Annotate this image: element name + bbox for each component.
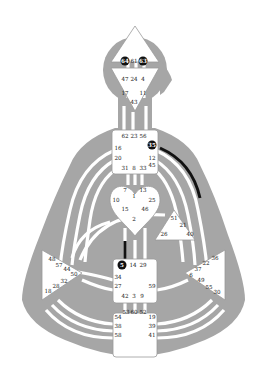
gate-10: 10 (112, 197, 120, 203)
gate-19: 19 (148, 314, 156, 320)
gate-56: 56 (139, 133, 147, 139)
gate-41: 41 (148, 332, 155, 338)
gate-25: 25 (148, 197, 156, 203)
gate-53: 53 (122, 309, 130, 315)
gate-55: 55 (205, 284, 213, 290)
gate-15: 15 (121, 206, 129, 212)
gate-4: 4 (141, 76, 145, 82)
gate-57: 57 (55, 262, 63, 268)
gate-50: 50 (70, 271, 78, 277)
gate-33: 33 (139, 165, 147, 171)
gate-35: 35 (148, 142, 156, 148)
gate-16: 16 (114, 145, 122, 151)
gate-36: 36 (211, 255, 219, 261)
gate-39: 39 (148, 323, 156, 329)
gate-38: 38 (114, 323, 122, 329)
gate-28: 28 (52, 283, 60, 289)
gate-40: 40 (186, 231, 194, 237)
gate-42: 42 (121, 293, 129, 299)
gate-26: 26 (160, 231, 168, 237)
gate-27: 27 (114, 283, 122, 289)
gate-59: 59 (148, 283, 156, 289)
gate-21: 21 (179, 222, 186, 228)
gate-43: 43 (130, 99, 138, 105)
gate-24: 24 (130, 76, 138, 82)
gate-54: 54 (114, 314, 122, 320)
gate-64: 64 (121, 58, 129, 64)
bodygraph-chart: 64 61 63 47 24 4 17 11 43 62 23 56 16 35… (0, 0, 267, 379)
gate-60: 60 (130, 309, 138, 315)
gate-46: 46 (141, 206, 149, 212)
gate-6: 6 (189, 272, 193, 278)
gate-5: 5 (120, 262, 124, 268)
gate-22: 22 (202, 260, 210, 266)
gate-12: 12 (148, 155, 156, 161)
gate-17: 17 (121, 90, 129, 96)
gate-47: 47 (121, 76, 129, 82)
gate-2: 2 (132, 216, 136, 222)
gate-20: 20 (114, 155, 122, 161)
gate-30: 30 (213, 289, 221, 295)
gate-11: 11 (139, 90, 146, 96)
gate-45: 45 (148, 162, 156, 168)
gate-51: 51 (170, 215, 177, 221)
gate-3: 3 (132, 293, 136, 299)
gate-9: 9 (140, 293, 144, 299)
gate-37: 37 (194, 266, 202, 272)
gate-32: 32 (60, 278, 68, 284)
gate-1: 1 (132, 193, 136, 199)
gate-63: 63 (139, 58, 147, 64)
gate-13: 13 (139, 187, 147, 193)
gate-34: 34 (114, 274, 122, 280)
gate-23: 23 (130, 133, 138, 139)
gate-61: 61 (130, 58, 137, 64)
gate-8: 8 (132, 165, 136, 171)
gate-7: 7 (123, 187, 127, 193)
gate-18: 18 (44, 288, 52, 294)
gate-31: 31 (121, 165, 128, 171)
gate-29: 29 (139, 262, 147, 268)
gate-49: 49 (197, 277, 205, 283)
gate-62: 62 (121, 133, 129, 139)
gate-14: 14 (129, 262, 137, 268)
gate-52: 52 (139, 309, 147, 315)
gate-58: 58 (114, 332, 122, 338)
